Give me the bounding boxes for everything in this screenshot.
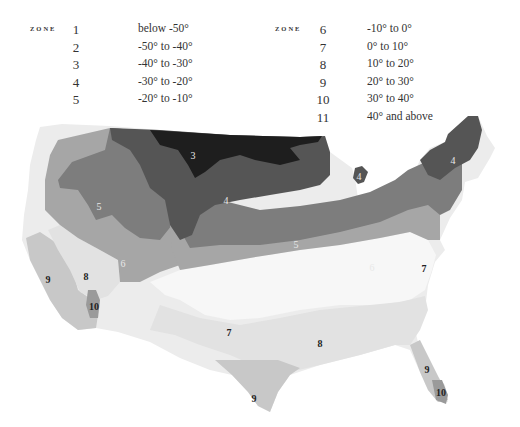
zone-label-8: 8 (318, 338, 323, 349)
zone-label-6: 6 (121, 258, 126, 269)
zone-label-10: 10 (436, 387, 446, 398)
zone-label-9: 9 (425, 364, 430, 375)
zone-label-6: 6 (370, 262, 375, 273)
zone-number: 10 (315, 92, 331, 108)
zone-number: 1 (68, 22, 84, 38)
zone-number: 6 (315, 22, 331, 38)
zone-label-8: 8 (84, 271, 89, 282)
zone-number: 9 (315, 75, 331, 91)
zone-number: 8 (315, 57, 331, 73)
zone-label-4: 4 (357, 171, 362, 182)
zone-range: -20° to -10° (138, 92, 193, 104)
zone-range: below -50° (138, 22, 189, 34)
zone-label-4: 4 (451, 155, 456, 166)
zone-label-5: 5 (294, 239, 299, 250)
zone-label-4: 4 (224, 195, 229, 206)
zone-range: 30° to 40° (367, 92, 414, 104)
zone-label-9: 9 (252, 393, 257, 404)
zone-number: 2 (68, 40, 84, 56)
zone-label-7: 7 (422, 263, 427, 274)
zone-label-10: 10 (89, 301, 99, 312)
zone-range: 40° and above (367, 110, 433, 122)
zone-range: 10° to 20° (367, 57, 414, 69)
zone-label-9: 9 (46, 274, 51, 285)
zone-range: 0° to 10° (367, 40, 408, 52)
zone-number: 5 (68, 92, 84, 108)
zone-range: -30° to -20° (138, 75, 193, 87)
zone-range: -10° to 0° (367, 22, 412, 34)
zone-range: 20° to 30° (367, 75, 414, 87)
zone-number: 3 (68, 57, 84, 73)
zone-range: -40° to -30° (138, 57, 193, 69)
zone-number: 11 (315, 110, 331, 126)
zone-label-7: 7 (227, 327, 232, 338)
zone-number: 4 (68, 75, 84, 91)
zone-label-3: 3 (191, 150, 196, 161)
zone-label-5: 5 (97, 201, 102, 212)
zone-range: -50° to -40° (138, 40, 193, 52)
zone-header: ZONE (30, 25, 56, 32)
zone-number: 7 (315, 40, 331, 56)
zone-header: ZONE (275, 25, 301, 32)
